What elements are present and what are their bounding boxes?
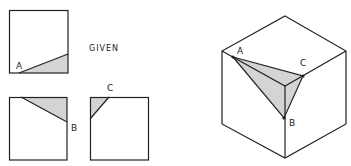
given-title: GIVEN <box>89 44 119 53</box>
isometric-cube: A C B <box>222 16 346 158</box>
label-a: A <box>16 61 23 71</box>
section-triangle <box>233 57 303 118</box>
iso-label-a: A <box>237 46 244 56</box>
label-b: B <box>71 123 77 133</box>
iso-label-c: C <box>300 58 306 68</box>
point-b-marker <box>282 116 285 119</box>
point-a-marker <box>231 55 234 58</box>
view-b: B <box>10 97 78 160</box>
point-c-marker <box>301 74 304 77</box>
view-a: A <box>10 11 69 74</box>
iso-label-b: B <box>289 118 295 128</box>
view-c: C <box>90 83 149 160</box>
label-c: C <box>107 83 113 93</box>
diagram-canvas: A GIVEN B C A C B <box>0 0 351 166</box>
